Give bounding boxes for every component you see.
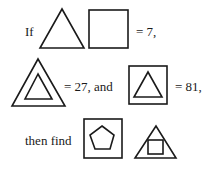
triangle-in-triangle-icon	[12, 59, 65, 106]
square-icon	[89, 10, 128, 48]
puzzle-figures	[0, 0, 224, 173]
pentagon-in-square-icon	[84, 119, 122, 158]
square-in-triangle-icon	[135, 126, 176, 158]
triangle-icon	[40, 9, 84, 48]
triangle-in-square-icon	[129, 66, 167, 104]
